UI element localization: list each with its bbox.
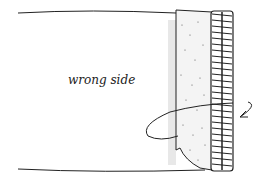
wrong-side-label: wrong side [68, 73, 135, 87]
diagram-svg [0, 0, 257, 180]
folded-seam-allowance [176, 10, 212, 170]
fabric-bottom-edge [18, 169, 205, 171]
sewing-diagram: wrong side [0, 0, 257, 180]
fabric-top-edge [18, 11, 176, 13]
fold-shadow [168, 20, 176, 165]
